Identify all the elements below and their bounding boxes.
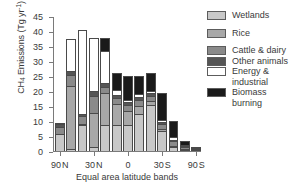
y-axis-tick-label: 5 bbox=[38, 137, 43, 138]
bar-segment bbox=[134, 114, 144, 152]
bar-segment bbox=[89, 38, 99, 91]
bar-segment bbox=[55, 134, 65, 151]
x-axis-tick-label: 90S bbox=[188, 160, 205, 170]
bar-segment bbox=[89, 147, 99, 152]
bar-segment bbox=[123, 76, 133, 100]
bar-segment bbox=[191, 150, 201, 151]
legend-item[interactable]: Wetlands bbox=[207, 10, 289, 21]
bar-segment bbox=[169, 121, 179, 138]
x-axis-title: Equal area latitude bands bbox=[53, 172, 201, 182]
bar-stack bbox=[66, 39, 76, 151]
legend-item[interactable]: Biomass burning bbox=[207, 87, 289, 108]
bar-stack bbox=[55, 123, 65, 151]
x-axis-tick-value: 30 bbox=[85, 160, 95, 170]
bar-stack bbox=[123, 76, 133, 151]
y-axis-title: CH4 Emissions (Tg yr-1) bbox=[15, 0, 26, 118]
y-axis-title-mid: Emissions (Tg yr bbox=[16, 10, 26, 78]
y-axis-tick: 20 bbox=[49, 92, 53, 93]
x-axis-tick: 90S bbox=[196, 152, 197, 156]
legend-label: Biomass burning bbox=[232, 87, 289, 108]
x-axis-line bbox=[53, 151, 201, 152]
bar-segment bbox=[100, 93, 110, 125]
bar-segment bbox=[146, 73, 156, 91]
legend-swatch-icon bbox=[207, 88, 226, 97]
y-axis-tick: 15 bbox=[49, 107, 53, 108]
legend-swatch-icon bbox=[207, 67, 226, 76]
bar-segment bbox=[78, 125, 88, 151]
bar-segment bbox=[157, 93, 167, 120]
y-axis-tick: 40 bbox=[49, 32, 53, 33]
chart-figure: CH4 Emissions (Tg yr-1) 0510152025303540… bbox=[0, 0, 289, 192]
legend-item[interactable]: Cattle & dairy bbox=[207, 45, 289, 56]
bar-segment bbox=[123, 125, 133, 151]
bar-segment bbox=[157, 131, 167, 151]
legend-item[interactable]: Energy & industrial bbox=[207, 66, 289, 87]
legend-swatch-icon bbox=[207, 11, 226, 20]
x-axis-tick-hemisphere: N bbox=[62, 160, 69, 170]
x-axis-tick: 30N bbox=[94, 152, 95, 156]
bar-segment bbox=[100, 51, 110, 83]
bar-segment bbox=[66, 149, 76, 151]
x-axis-tick-label: 30N bbox=[85, 160, 103, 170]
y-axis-tick-label: 0 bbox=[38, 152, 43, 153]
y-axis-tick-label: 25 bbox=[33, 77, 43, 78]
x-axis-tick-label: 0 bbox=[125, 160, 130, 170]
legend-label: Other animals bbox=[232, 56, 288, 67]
x-axis-tick: 0 bbox=[128, 152, 129, 156]
bar-segment bbox=[123, 111, 133, 125]
x-axis-tick-hemisphere: S bbox=[165, 160, 171, 170]
bar-stack bbox=[89, 38, 99, 151]
legend-swatch-icon bbox=[207, 57, 226, 66]
y-axis-tick-label: 20 bbox=[33, 92, 43, 93]
y-axis-tick-label: 35 bbox=[33, 47, 43, 48]
bar-segment bbox=[66, 86, 76, 149]
x-axis-tick-value: 30 bbox=[154, 160, 164, 170]
y-axis-title-sub: 4 bbox=[19, 78, 26, 82]
y-axis-tick-label: 15 bbox=[33, 107, 43, 108]
x-axis-tick-value: 90 bbox=[188, 160, 198, 170]
bar-stack bbox=[180, 141, 190, 152]
bar-stack bbox=[134, 76, 144, 151]
y-axis-title-prefix: CH bbox=[16, 81, 26, 94]
bar-segment bbox=[89, 113, 99, 147]
x-axis-tick-label: 30S bbox=[154, 160, 171, 170]
bar-stack bbox=[78, 30, 88, 151]
y-axis-title-suffix: ) bbox=[16, 1, 26, 4]
bar-segment bbox=[112, 104, 122, 125]
legend-swatch-icon bbox=[207, 29, 226, 38]
plot-area: 051015202530354045 90N30N030S90S bbox=[53, 17, 201, 152]
bar-segment bbox=[134, 76, 144, 94]
legend-label: Wetlands bbox=[232, 10, 269, 21]
legend-item[interactable]: Other animals bbox=[207, 56, 289, 67]
legend-label: Energy & industrial bbox=[232, 66, 289, 87]
legend-item[interactable]: Rice bbox=[207, 28, 289, 39]
y-axis-tick-label: 10 bbox=[33, 122, 43, 123]
legend-label: Cattle & dairy bbox=[232, 45, 286, 56]
y-axis-tick-label: 45 bbox=[33, 17, 43, 18]
y-axis-tick-label: 40 bbox=[33, 32, 43, 33]
bar-stack bbox=[169, 121, 179, 151]
chart-legend: WetlandsRiceCattle & dairyOther animalsE… bbox=[207, 10, 289, 108]
y-axis-tick: 25 bbox=[49, 77, 53, 78]
y-axis-tick: 5 bbox=[49, 137, 53, 138]
bar-segment bbox=[89, 96, 99, 112]
y-axis-tick: 45 bbox=[49, 17, 53, 18]
y-axis-tick: 0 bbox=[49, 152, 53, 153]
bar-segment bbox=[180, 150, 190, 152]
x-axis-tick-hemisphere: S bbox=[199, 160, 205, 170]
y-axis-title-sup: -1 bbox=[15, 4, 22, 10]
y-axis-tick: 10 bbox=[49, 122, 53, 123]
y-axis-tick-label: 30 bbox=[33, 62, 43, 63]
bar-stack bbox=[191, 147, 201, 151]
bar-stack bbox=[157, 93, 167, 151]
bar-segment bbox=[55, 127, 65, 135]
bar-segment bbox=[66, 75, 76, 86]
bar-segment bbox=[146, 105, 156, 151]
bar-segment bbox=[78, 116, 88, 124]
x-axis-tick-value: 90 bbox=[51, 160, 61, 170]
bar-segment bbox=[78, 30, 88, 115]
bar-segment bbox=[169, 147, 179, 151]
bar-segment bbox=[112, 125, 122, 151]
bar-segment bbox=[100, 125, 110, 151]
x-axis-tick: 90N bbox=[60, 152, 61, 156]
